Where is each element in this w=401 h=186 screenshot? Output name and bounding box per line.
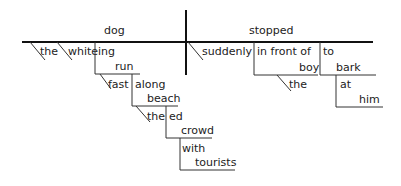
infinitive-marker: to <box>323 45 334 58</box>
modifier-the-boy: the <box>289 78 307 91</box>
modifier-the: the <box>40 45 58 58</box>
preposition-at: at <box>340 78 352 91</box>
adverb-suddenly: suddenly <box>202 45 252 58</box>
sentence-diagram: dog the white ing run fast along beach t… <box>0 0 401 186</box>
participle-verb: run <box>115 60 133 73</box>
modifier-the-beach: the <box>147 110 165 123</box>
object-beach: beach <box>147 92 181 105</box>
object-boy: boy <box>299 61 320 74</box>
subject-word: dog <box>104 24 125 37</box>
object-tourists: tourists <box>195 156 237 169</box>
predicate-verb: stopped <box>249 24 294 37</box>
preposition-along: along <box>135 78 165 91</box>
preposition-with: with <box>182 142 205 155</box>
modifier-white: white <box>68 45 98 58</box>
participle-suffix: ing <box>98 45 115 58</box>
object-him: him <box>359 93 380 106</box>
adverb-fast: fast <box>108 78 129 91</box>
adverb-slant-suddenly <box>188 42 203 60</box>
preposition-in-front-of: in front of <box>257 45 312 58</box>
participle2-suffix: ed <box>169 110 183 123</box>
participle2-verb: crowd <box>181 124 214 137</box>
infinitive-verb: bark <box>336 61 361 74</box>
